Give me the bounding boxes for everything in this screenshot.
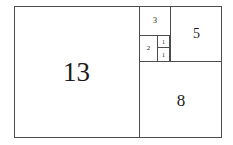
square-1-upper: 1 xyxy=(158,36,170,48)
square-3: 3 xyxy=(140,6,170,36)
square-label-5: 5 xyxy=(193,27,200,41)
square-8: 8 xyxy=(140,61,222,138)
square-label-3: 3 xyxy=(153,17,157,25)
fibonacci-squares-diagram: 13 8 5 3 2 1 1 xyxy=(0,0,233,145)
square-1-lower: 1 xyxy=(158,48,170,61)
square-label-2: 2 xyxy=(147,45,151,52)
square-label-13: 13 xyxy=(63,59,90,86)
square-label-8: 8 xyxy=(177,92,186,109)
square-2: 2 xyxy=(140,36,158,61)
square-label-1-upper: 1 xyxy=(162,39,165,45)
square-13: 13 xyxy=(14,6,140,138)
square-label-1-lower: 1 xyxy=(162,52,165,58)
square-5: 5 xyxy=(170,6,222,61)
